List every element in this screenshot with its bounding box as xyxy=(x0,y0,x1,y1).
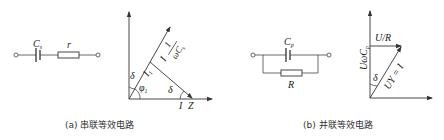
series-circuit xyxy=(14,48,100,62)
terminal-right xyxy=(327,53,331,57)
i1-label: I1 xyxy=(140,67,154,80)
caption-b: (b) 并联等效电路 xyxy=(303,119,373,130)
delta-label-top: δ xyxy=(130,70,135,81)
terminal-right xyxy=(96,53,100,57)
terminal-left xyxy=(251,53,255,57)
uy-equals-i-label: UY = I xyxy=(381,61,405,91)
resistor-R xyxy=(281,70,302,76)
terminal-left xyxy=(14,53,18,57)
phi1-label: φ1 xyxy=(139,82,148,94)
delta-arc-top xyxy=(129,87,135,89)
delta-label-bottom: δ xyxy=(168,84,173,95)
cap-label-cs: Cs xyxy=(33,38,43,50)
u-omega-cp-label: UωCp xyxy=(358,46,370,70)
fraction-prefix: I xyxy=(157,54,169,64)
parallel-phasor-diagram xyxy=(370,11,432,98)
fraction-numerator: 1 xyxy=(162,40,173,49)
caption-a: (a) 串联等效电路 xyxy=(65,119,134,130)
figure-canvas: Cs r δ φ1 I1 I 1 ωCs δ I Z (a) 串联等效电路 xyxy=(0,0,444,140)
resistor-label-r: r xyxy=(67,39,71,50)
u-over-r-label: U/R xyxy=(375,32,391,43)
x-label-z: Z xyxy=(188,100,194,111)
delta-arc xyxy=(370,84,377,86)
resistor-label-R: R xyxy=(287,79,294,90)
x-label-i: I xyxy=(178,100,183,111)
delta-label: δ xyxy=(373,72,378,83)
fraction-label: I 1 ωCs xyxy=(154,35,187,68)
parallel-circuit xyxy=(251,48,331,76)
cap-label-cp: Cp xyxy=(284,36,294,48)
resistor-r xyxy=(58,52,79,58)
impedance-vector xyxy=(129,27,170,99)
delta-arc-bottom xyxy=(180,91,184,99)
